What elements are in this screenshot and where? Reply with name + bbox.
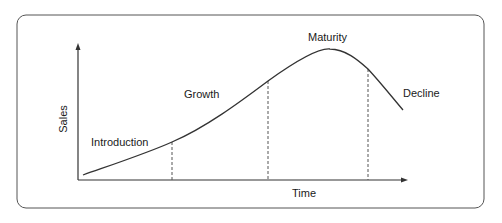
product-life-cycle-diagram: Sales Time Introduction Growth Maturity … <box>0 0 502 223</box>
stage-label-introduction: Introduction <box>91 136 148 148</box>
stage-label-maturity: Maturity <box>308 31 348 43</box>
stage-label-growth: Growth <box>184 88 219 100</box>
stage-label-decline: Decline <box>403 87 440 99</box>
diagram-frame <box>17 15 484 208</box>
x-axis-label: Time <box>292 187 316 199</box>
y-axis-label: Sales <box>57 105 69 133</box>
